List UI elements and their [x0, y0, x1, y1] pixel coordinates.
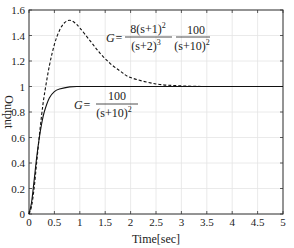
x-tick-label: 3 [179, 216, 185, 228]
x-tick-label: 1 [77, 216, 83, 228]
y-tick-label: 1.2 [11, 55, 25, 67]
x-tick-label: 0.5 [48, 216, 62, 228]
x-tick-labels: 00.511.522.533.544.55 [26, 216, 286, 228]
y-tick-label: 1 [20, 81, 26, 93]
annotation-1-num2: 100 [187, 23, 205, 37]
x-tick-label: 2 [128, 216, 134, 228]
step-response-chart: 00.511.522.533.544.55 00.20.40.60.811.21… [0, 0, 294, 248]
y-tick-label: 0.2 [11, 183, 25, 195]
annotation-1-label: G= [106, 31, 123, 45]
x-tick-label: 0 [26, 216, 32, 228]
annotation-2-label: G= [74, 98, 91, 112]
annotation-2-den: (s+10)2 [96, 105, 131, 120]
y-axis-label: Output [2, 95, 16, 129]
x-tick-label: 4.5 [251, 216, 265, 228]
x-tick-label: 2.5 [149, 216, 163, 228]
y-tick-label: 0.6 [11, 132, 25, 144]
x-axis-label: Time[sec] [132, 232, 180, 246]
annotation-1-den1: (s+2)3 [131, 38, 160, 53]
y-tick-label: 1.4 [11, 30, 25, 42]
x-tick-label: 5 [280, 216, 286, 228]
x-tick-label: 3.5 [200, 216, 214, 228]
annotation-1-den2: (s+10)2 [174, 38, 209, 53]
annotation-solid-formula: G= 100 (s+10)2 [74, 89, 138, 120]
y-tick-label: 0 [20, 208, 26, 220]
x-tick-label: 4 [229, 216, 235, 228]
annotation-dashed-formula: G= 8(s+1)2 (s+2)3 100 (s+10)2 [106, 21, 210, 53]
annotation-1-num1: 8(s+1)2 [130, 21, 165, 36]
y-tick-label: 1.6 [11, 4, 25, 16]
y-tick-label: 0.4 [11, 157, 25, 169]
x-tick-label: 1.5 [98, 216, 112, 228]
annotation-2-num: 100 [108, 89, 126, 103]
